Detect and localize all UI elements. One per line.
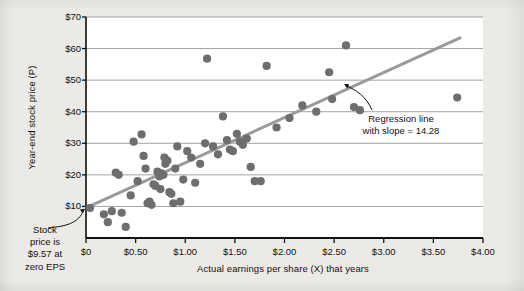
y-axis bbox=[82, 17, 86, 238]
scatter-point bbox=[196, 160, 204, 168]
x-tick-label: $0.50 bbox=[113, 246, 159, 257]
scatter-point bbox=[137, 130, 145, 138]
x-tick-label: $2.50 bbox=[311, 246, 357, 257]
scatter-point bbox=[223, 136, 231, 144]
scatter-point bbox=[169, 199, 177, 207]
scatter-point bbox=[115, 171, 123, 179]
scatter-point bbox=[214, 150, 222, 158]
scatter-point bbox=[159, 171, 167, 179]
intercept-annotation: Stock price is $9.57 at zero EPS bbox=[14, 224, 76, 273]
intercept-annotation-line-3: $9.57 at bbox=[14, 248, 76, 260]
scatter-point bbox=[163, 157, 171, 165]
x-axis bbox=[86, 238, 483, 243]
x-tick-label: $1.50 bbox=[212, 246, 258, 257]
scatter-point bbox=[127, 191, 135, 199]
y-tick-label: $20 bbox=[47, 169, 81, 180]
scatter-point bbox=[171, 164, 179, 172]
regression-annotation-line-2: with slope = 14.28 bbox=[338, 125, 464, 137]
x-tick-label: $3.00 bbox=[361, 246, 407, 257]
scatter-point bbox=[156, 185, 164, 193]
scatter-point bbox=[219, 112, 227, 120]
scatter-point bbox=[285, 114, 293, 122]
scatter-point bbox=[141, 164, 149, 172]
y-tick-label: $60 bbox=[47, 43, 81, 54]
scatter-point bbox=[167, 190, 175, 198]
scatter-point bbox=[247, 163, 255, 171]
x-tick-label: $3.50 bbox=[410, 246, 456, 257]
x-tick-label: $1.00 bbox=[162, 246, 208, 257]
scatter-point bbox=[229, 147, 237, 155]
scatter-point bbox=[187, 153, 195, 161]
scatter-point bbox=[176, 198, 184, 206]
scatter-point bbox=[104, 218, 112, 226]
scatter-point bbox=[312, 108, 320, 116]
scatter-point bbox=[191, 179, 199, 187]
scatter-point bbox=[203, 55, 211, 63]
scatter-point bbox=[139, 152, 147, 160]
y-axis-title: Year-end stock price (P) bbox=[26, 48, 37, 188]
x-tick-label: $2.00 bbox=[262, 246, 308, 257]
scatter-point bbox=[298, 101, 306, 109]
scatter-point bbox=[243, 134, 251, 142]
scatter-point bbox=[342, 41, 350, 49]
scatter-point bbox=[130, 138, 138, 146]
scatter-point bbox=[233, 130, 241, 138]
scatter-point bbox=[257, 177, 265, 185]
x-tick-label: $4.00 bbox=[460, 246, 506, 257]
scatter-point bbox=[209, 142, 217, 150]
scatter-chart-figure: Year-end stock price (P) Actual earnings… bbox=[0, 0, 524, 291]
intercept-annotation-line-4: zero EPS bbox=[14, 261, 76, 273]
y-tick-label: $50 bbox=[47, 74, 81, 85]
intercept-annotation-line-1: Stock bbox=[14, 224, 76, 236]
scatter-point bbox=[173, 142, 181, 150]
scatter-point bbox=[122, 223, 130, 231]
scatter-point bbox=[179, 175, 187, 183]
intercept-annotation-line-2: price is bbox=[14, 236, 76, 248]
scatter-point bbox=[100, 210, 108, 218]
scatter-point bbox=[325, 68, 333, 76]
scatter-point bbox=[328, 95, 336, 103]
scatter-point bbox=[263, 62, 271, 70]
y-tick-label: $40 bbox=[47, 106, 81, 117]
scatter-point bbox=[147, 201, 155, 209]
y-tick-label: $10 bbox=[47, 200, 81, 211]
scatter-point bbox=[201, 139, 209, 147]
regression-annotation-line-1: Regression line bbox=[338, 113, 464, 125]
y-tick-label: $30 bbox=[47, 137, 81, 148]
scatter-point bbox=[272, 123, 280, 131]
scatter-point bbox=[86, 204, 94, 212]
scatter-point bbox=[453, 93, 461, 101]
y-tick-label: $70 bbox=[47, 11, 81, 22]
scatter-point bbox=[134, 177, 142, 185]
x-axis-title: Actual earnings per share (X) that years bbox=[128, 263, 438, 274]
scatter-point bbox=[108, 207, 116, 215]
regression-annotation: Regression line with slope = 14.28 bbox=[338, 113, 464, 137]
scatter-point bbox=[118, 209, 126, 217]
